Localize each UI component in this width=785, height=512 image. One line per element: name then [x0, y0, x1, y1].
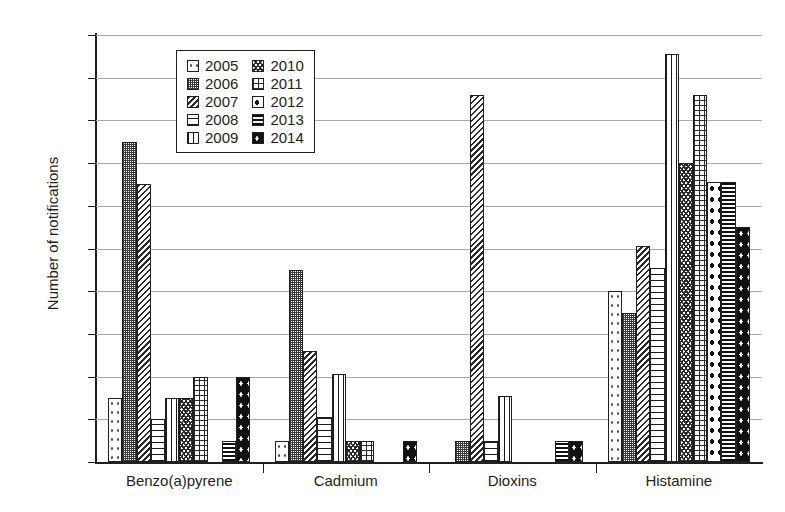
bar-cadmium-2011 [360, 441, 374, 462]
bar-cadmium-2009 [332, 374, 346, 462]
legend-swatch-diagonal-hatch-icon [187, 96, 199, 108]
y-tick-mark [88, 419, 96, 420]
bar-benzo-a-pyrene-2013 [222, 441, 236, 462]
y-tick-mark [88, 377, 96, 378]
bar-dioxins-2014 [569, 441, 583, 462]
legend-item-2012[interactable]: 2012 [252, 94, 303, 109]
x-tick-label: Cadmium [263, 472, 430, 489]
x-tick-label: Histamine [596, 472, 763, 489]
bar-cadmium-2010 [346, 441, 360, 462]
bar-histamine-2008 [650, 268, 664, 462]
x-tick-label: Dioxins [429, 472, 596, 489]
x-tick-mark [429, 464, 430, 473]
legend-column-left: 20052006200720082009 [187, 58, 238, 145]
bar-dioxins-2009 [498, 396, 512, 462]
bar-histamine-2013 [721, 182, 735, 462]
x-tick-mark [596, 464, 597, 473]
bar-dioxins-2007 [470, 95, 484, 462]
y-tick-mark [88, 462, 96, 463]
legend-column-right: 20102011201220132014 [252, 58, 303, 145]
legend-item-2005[interactable]: 2005 [187, 58, 238, 73]
bar-histamine-2011 [693, 95, 707, 462]
y-tick-mark [88, 291, 96, 292]
legend-swatch-open-grid-icon [252, 78, 264, 90]
bar-dioxins-2006 [455, 441, 469, 462]
y-tick-mark [88, 206, 96, 207]
bar-cadmium-2007 [303, 351, 317, 462]
legend-swatch-vertical-lines-icon [187, 132, 199, 144]
legend-swatch-wave-crosshatch-icon [252, 60, 264, 72]
y-tick-mark [88, 120, 96, 121]
bar-cadmium-2005 [275, 441, 289, 462]
bar-histamine-2010 [679, 163, 693, 462]
y-tick-mark [88, 163, 96, 164]
legend-label: 2005 [205, 58, 238, 73]
bar-benzo-a-pyrene-2007 [137, 184, 151, 462]
legend-item-2008[interactable]: 2008 [187, 112, 238, 127]
legend-item-2006[interactable]: 2006 [187, 76, 238, 91]
bar-histamine-2014 [736, 227, 750, 462]
bar-cadmium-2006 [289, 270, 303, 462]
legend-item-2010[interactable]: 2010 [252, 58, 303, 73]
legend-label: 2013 [270, 112, 303, 127]
gridline [96, 35, 762, 36]
legend-label: 2006 [205, 76, 238, 91]
bar-benzo-a-pyrene-2006 [122, 142, 136, 462]
legend: 20052006200720082009 2010201120122013201… [176, 50, 315, 153]
bar-chart: Number of notifications 2005200620072008… [0, 0, 785, 512]
x-tick-mark [263, 464, 264, 473]
bar-cadmium-2014 [403, 441, 417, 462]
legend-item-2009[interactable]: 2009 [187, 130, 238, 145]
y-tick-mark [88, 334, 96, 335]
bar-cadmium-2008 [317, 417, 331, 462]
bar-histamine-2005 [608, 291, 622, 462]
legend-item-2014[interactable]: 2014 [252, 130, 303, 145]
bar-histamine-2007 [636, 246, 650, 462]
legend-label: 2007 [205, 94, 238, 109]
legend-label: 2012 [270, 94, 303, 109]
bar-dioxins-2008 [484, 441, 498, 462]
bar-dioxins-2013 [555, 441, 569, 462]
bar-benzo-a-pyrene-2011 [193, 377, 207, 462]
y-tick-mark [88, 35, 96, 36]
bar-benzo-a-pyrene-2009 [165, 398, 179, 462]
bar-benzo-a-pyrene-2005 [108, 398, 122, 462]
y-axis-title: Number of notifications [44, 104, 61, 364]
legend-label: 2010 [270, 58, 303, 73]
legend-item-2013[interactable]: 2013 [252, 112, 303, 127]
legend-swatch-dense-horizontal-icon [252, 114, 264, 126]
bar-histamine-2009 [665, 54, 679, 462]
bar-benzo-a-pyrene-2014 [236, 377, 250, 462]
legend-label: 2009 [205, 130, 238, 145]
legend-item-2011[interactable]: 2011 [252, 76, 303, 91]
bar-benzo-a-pyrene-2010 [179, 398, 193, 462]
legend-item-2007[interactable]: 2007 [187, 94, 238, 109]
x-tick-label: Benzo(a)pyrene [96, 472, 263, 489]
legend-swatch-large-dots-icon [252, 96, 264, 108]
legend-swatch-sparse-dots-icon [187, 60, 199, 72]
legend-swatch-horizontal-lines-icon [187, 114, 199, 126]
bar-histamine-2012 [707, 182, 721, 462]
legend-swatch-black-dots-icon [252, 132, 264, 144]
legend-label: 2014 [270, 130, 303, 145]
gridline [96, 206, 762, 207]
bar-benzo-a-pyrene-2008 [151, 419, 165, 462]
legend-swatch-fine-checker-icon [187, 78, 199, 90]
legend-label: 2008 [205, 112, 238, 127]
y-tick-mark [88, 249, 96, 250]
gridline [96, 163, 762, 164]
gridline [96, 249, 762, 250]
bar-histamine-2006 [622, 313, 636, 462]
legend-label: 2011 [270, 76, 302, 91]
y-tick-mark [88, 78, 96, 79]
